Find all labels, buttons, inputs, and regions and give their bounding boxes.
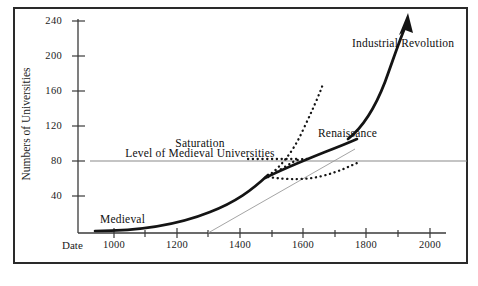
x-axis-title: Date (62, 240, 83, 251)
annotation-medieval: Medieval (100, 214, 145, 226)
y-axis-title: Numbers of Universities (20, 54, 32, 194)
x-tick-label-2000: 2000 (410, 240, 450, 251)
annotation-industrial-revolution: Industrial Revolution (352, 38, 454, 50)
annotation-renaissance: Renaissance (318, 128, 377, 140)
runaway-exponential-dotted-curve (268, 84, 323, 176)
x-tick-label-1200: 1200 (157, 240, 197, 251)
y-tick-label-240: 240 (32, 16, 62, 27)
industrial-revolution-arrowhead (399, 13, 413, 35)
x-tick-label-1400: 1400 (220, 240, 260, 251)
x-tick-label-1000: 1000 (94, 240, 134, 251)
axis-lines (78, 19, 446, 233)
figure-container: Numbers of Universities 240 200 160 120 … (0, 0, 478, 286)
x-tick-label-1600: 1600 (283, 240, 323, 251)
annotation-saturation-level: Level of Medieval Universities (96, 148, 304, 160)
y-tick-label-200: 200 (32, 51, 62, 62)
y-tick-label-80: 80 (32, 156, 62, 167)
y-tick-label-40: 40 (32, 191, 62, 202)
x-tick-label-1800: 1800 (346, 240, 386, 251)
y-tick-label-120: 120 (32, 121, 62, 132)
y-tick-label-160: 160 (32, 86, 62, 97)
tangent-guide-line (208, 149, 355, 233)
